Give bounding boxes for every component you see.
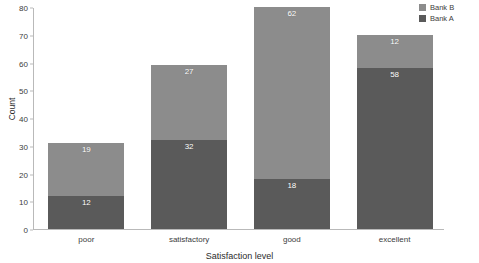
y-axis-tick-mark [30,230,33,231]
y-axis-tick-mark [30,146,33,147]
bar-value-label: 27 [185,68,194,76]
bar-stack[interactable]: 1258excellent [357,35,433,229]
bar-value-label: 12 [82,199,91,207]
y-axis-tick-label: 50 [19,87,28,96]
y-axis-tick-label: 10 [19,198,28,207]
bar-value-label: 62 [287,10,296,18]
bar-segment[interactable]: 19 [48,143,124,196]
stacked-bar-chart: Bank BBank A Count Satisfaction level 01… [0,0,479,263]
bar-segment[interactable]: 27 [151,65,227,140]
y-axis-tick-mark [30,8,33,9]
bar-segment[interactable]: 12 [48,196,124,229]
bar-stack[interactable]: 2732satisfactory [151,65,227,229]
x-axis-tick-label: poor [48,235,124,244]
x-axis-tick-label: excellent [357,235,433,244]
y-axis-title: Count [7,79,17,139]
bar-segment[interactable]: 62 [254,7,330,179]
bar-stack[interactable]: 1912poor [48,143,124,229]
y-axis-tick-mark [30,119,33,120]
y-axis-tick-mark [30,202,33,203]
y-axis-line [33,8,34,230]
x-axis-line [33,229,444,230]
bar-value-label: 19 [82,146,91,154]
bar-segment[interactable]: 58 [357,68,433,229]
y-axis-tick-label: 80 [19,4,28,13]
bar-value-label: 18 [287,182,296,190]
x-axis-title: Satisfaction level [0,251,479,261]
y-axis-tick-label: 20 [19,170,28,179]
plot-area: 010203040506070801912poor2732satisfactor… [33,8,444,230]
y-axis-tick-mark [30,63,33,64]
bar-segment[interactable]: 18 [254,179,330,229]
bar-value-label: 32 [185,143,194,151]
y-axis-tick-label: 0 [24,226,28,235]
x-axis-tick-label: satisfactory [151,235,227,244]
bar-value-label: 58 [390,71,399,79]
x-axis-tick-label: good [254,235,330,244]
bar-stack[interactable]: 6218good [254,7,330,229]
y-axis-tick-label: 70 [19,31,28,40]
bar-value-label: 12 [390,38,399,46]
bar-segment[interactable]: 12 [357,35,433,68]
y-axis-tick-label: 40 [19,115,28,124]
y-axis-tick-mark [30,91,33,92]
y-axis-tick-mark [30,35,33,36]
y-axis-tick-label: 30 [19,142,28,151]
y-axis-tick-mark [30,174,33,175]
y-axis-tick-label: 60 [19,59,28,68]
bar-segment[interactable]: 32 [151,140,227,229]
